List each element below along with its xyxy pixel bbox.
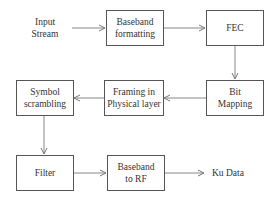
block-filter: Filter — [16, 155, 74, 191]
ku-data-label: Ku Data — [212, 167, 256, 179]
block-baseband-formatting: Baseband formatting — [106, 10, 164, 46]
block-framing-physical-layer: Framing in Physical layer — [104, 80, 164, 116]
block-bit-mapping: Bit Mapping — [206, 80, 264, 116]
input-stream-label: Input Stream — [22, 16, 68, 40]
block-baseband-to-rf: Baseband to RF — [107, 155, 165, 191]
block-fec: FEC — [206, 10, 264, 46]
block-symbol-scrambling: Symbol scrambling — [16, 80, 74, 116]
